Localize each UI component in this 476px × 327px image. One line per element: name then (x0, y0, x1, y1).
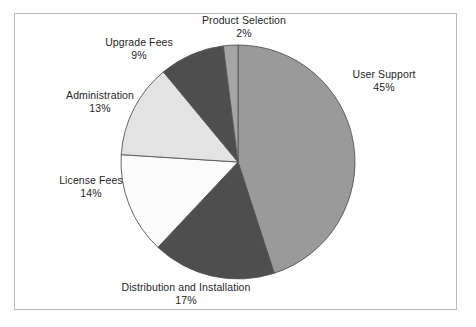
slice-label-name: User Support (326, 68, 442, 81)
slice-label-value: 14% (34, 187, 148, 200)
slice-label-upgrade-fees: Upgrade Fees 9% (84, 36, 194, 61)
slice-label-name: Product Selection (178, 14, 310, 27)
slice-label-value: 45% (326, 81, 442, 94)
pie-chart-svg (0, 0, 476, 327)
slice-label-product-selection: Product Selection 2% (178, 14, 310, 39)
slice-label-value: 2% (178, 27, 310, 40)
pie-slices-group (121, 45, 355, 279)
slice-label-user-support: User Support 45% (326, 68, 442, 93)
slice-label-value: 17% (98, 294, 274, 307)
pie-svg-container (0, 0, 476, 327)
slice-label-name: License Fees (34, 174, 148, 187)
slice-label-license-fees: License Fees 14% (34, 174, 148, 199)
slice-label-name: Distribution and Installation (98, 281, 274, 294)
slice-label-distribution-and-installation: Distribution and Installation 17% (98, 281, 274, 306)
slice-label-value: 13% (39, 102, 161, 115)
slice-label-value: 9% (84, 49, 194, 62)
pie-chart-figure: User Support 45% Distribution and Instal… (0, 0, 476, 327)
slice-label-name: Administration (39, 89, 161, 102)
slice-label-administration: Administration 13% (39, 89, 161, 114)
